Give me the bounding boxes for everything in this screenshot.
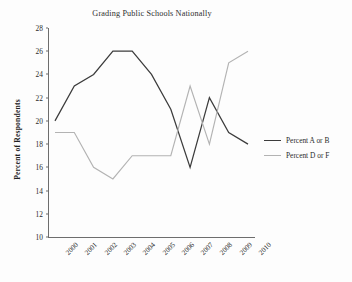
chart-title: Grading Public Schools Nationally bbox=[48, 9, 256, 18]
legend-label: Percent D or F bbox=[286, 151, 329, 160]
x-tick-label: 2010 bbox=[257, 241, 273, 257]
y-tick-label: 14 bbox=[36, 186, 43, 195]
legend-line-icon bbox=[264, 140, 281, 142]
y-tick-label: 18 bbox=[36, 140, 43, 149]
x-tick-label: 2000 bbox=[64, 241, 80, 257]
x-tick-label: 2006 bbox=[180, 241, 196, 257]
y-tick-label: 10 bbox=[36, 233, 43, 242]
legend-label: Percent A or B bbox=[286, 136, 329, 145]
series-lines bbox=[48, 28, 255, 238]
x-tick-label: 2004 bbox=[141, 241, 157, 257]
x-tick-label: 2001 bbox=[84, 241, 100, 257]
y-axis-title: Percent of Respondents bbox=[13, 85, 22, 195]
y-tick-label: 20 bbox=[36, 116, 43, 125]
legend-line-icon bbox=[264, 155, 281, 157]
x-tick-label: 2008 bbox=[219, 241, 235, 257]
x-tick-label: 2003 bbox=[122, 241, 138, 257]
x-tick-label: 2009 bbox=[238, 241, 254, 257]
x-tick-label: 2007 bbox=[199, 241, 215, 257]
plot-area: 28262422201816141210 2000200120022003200… bbox=[48, 28, 255, 238]
y-tick-label: 12 bbox=[36, 209, 43, 218]
y-tick-label: 26 bbox=[36, 47, 43, 56]
x-tick-label: 2002 bbox=[103, 241, 119, 257]
chart-figure: Grading Public Schools Nationally Percen… bbox=[0, 0, 352, 282]
chart-legend: Percent A or BPercent D or F bbox=[264, 133, 350, 163]
x-tick-label: 2005 bbox=[161, 241, 177, 257]
legend-item[interactable]: Percent A or B bbox=[264, 133, 350, 148]
legend-item[interactable]: Percent D or F bbox=[264, 148, 350, 163]
y-tick-label: 16 bbox=[36, 163, 43, 172]
y-tick-label: 28 bbox=[36, 24, 43, 33]
y-tick-label: 24 bbox=[36, 70, 43, 79]
y-tick-label: 22 bbox=[36, 93, 43, 102]
